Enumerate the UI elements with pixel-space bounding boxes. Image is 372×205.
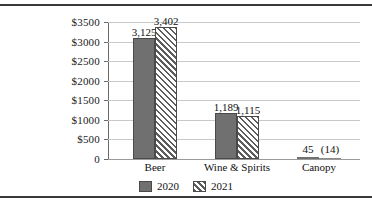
legend-label-2020: 2020 bbox=[157, 180, 179, 192]
bar-wine-2021[interactable]: 1,115 bbox=[237, 116, 259, 159]
x-label-wine-and-spirits: Wine & Spirits bbox=[204, 161, 270, 173]
bar-canopy-2021[interactable]: (14) bbox=[319, 158, 341, 159]
x-label-canopy: Canopy bbox=[302, 161, 336, 173]
y-tick-label-0: 0 bbox=[94, 153, 100, 165]
bar-label-beer-2020: 3,125 bbox=[132, 26, 157, 38]
bar-wine-2020[interactable]: 1,189 bbox=[215, 113, 237, 159]
y-tick-label-3000: $3000 bbox=[72, 36, 101, 48]
hatched-swatch-icon bbox=[193, 181, 206, 192]
y-tick-label-2000: $2000 bbox=[72, 75, 101, 87]
bar-label-wine-2020: 1,189 bbox=[214, 101, 239, 113]
bar-canopy-2020[interactable]: 45 bbox=[297, 157, 319, 159]
y-tick-label-3500: $3500 bbox=[72, 16, 101, 28]
bar-group-wine-and-spirits: 1,189 1,115 bbox=[208, 22, 266, 159]
bar-label-beer-2021: 3,402 bbox=[154, 15, 179, 27]
chart-figure: $3500 $3000 $2500 $2000 $1500 $1000 $500… bbox=[0, 0, 372, 205]
legend-item-2020[interactable]: 2020 bbox=[139, 180, 179, 192]
bar-group-beer: 3,125 3,402 bbox=[126, 22, 184, 159]
chart-legend: 2020 2021 bbox=[0, 180, 372, 192]
y-tick-label-500: $500 bbox=[77, 133, 100, 145]
solid-gray-swatch-icon bbox=[139, 181, 152, 192]
legend-item-2021[interactable]: 2021 bbox=[193, 180, 233, 192]
bar-label-canopy-2020: 45 bbox=[303, 143, 314, 155]
gridline-baseline-0 bbox=[108, 159, 360, 160]
y-tick-label-1000: $1000 bbox=[72, 114, 101, 126]
y-tick-label-2500: $2500 bbox=[72, 55, 101, 67]
x-axis-labels: Beer Wine & Spirits Canopy bbox=[108, 161, 360, 177]
y-axis-labels: $3500 $3000 $2500 $2000 $1500 $1000 $500… bbox=[0, 22, 104, 159]
bottom-divider-rule bbox=[0, 196, 372, 198]
bar-beer-2021[interactable]: 3,402 bbox=[155, 27, 177, 159]
top-divider-rule bbox=[0, 4, 372, 6]
y-tick-label-1500: $1500 bbox=[72, 94, 101, 106]
bar-groups: 3,125 3,402 1,189 1,115 45 (14) bbox=[108, 22, 360, 159]
bar-label-canopy-2021: (14) bbox=[321, 143, 339, 155]
bar-beer-2020[interactable]: 3,125 bbox=[133, 38, 155, 159]
legend-label-2021: 2021 bbox=[211, 180, 233, 192]
bar-label-wine-2021: 1,115 bbox=[236, 104, 260, 116]
x-label-beer: Beer bbox=[145, 161, 166, 173]
bar-group-canopy: 45 (14) bbox=[290, 22, 348, 159]
